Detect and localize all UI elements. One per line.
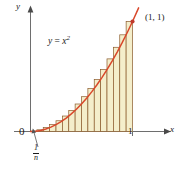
x-tick-label-one: 1 [128,127,133,136]
origin-label: 0 [19,126,25,137]
riemann-rectangle [126,22,132,132]
riemann-sum-figure [0,0,186,169]
point-one-one-label: (1, 1) [145,13,165,22]
point-one-one-marker [130,19,134,23]
figure-background [0,0,186,169]
x-axis-label: x [170,125,174,134]
subinterval-width-label: 1 n [33,144,39,162]
curve-label-exponent: 2 [67,34,71,42]
curve-equation-label: y = x2 [48,35,70,47]
riemann-rectangle [120,35,126,132]
fraction-denominator: n [33,154,39,162]
riemann-rectangle [107,59,113,132]
fraction-numerator: 1 [33,144,39,152]
riemann-rectangle [113,47,119,131]
curve-label-equals: = [52,36,62,46]
y-axis-label: y [16,2,20,11]
